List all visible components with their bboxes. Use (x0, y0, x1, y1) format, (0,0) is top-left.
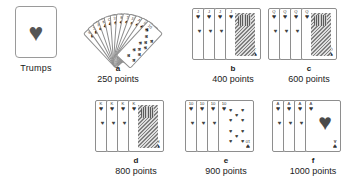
card-group-f: A♥♥A♥♥A♥♥A♥A♥♥ (272, 100, 342, 158)
group-letter-f: f (263, 156, 347, 166)
card-group-b: J♥♥J♥♥J♥♥J♥J♥ (192, 8, 262, 66)
trumps-label: Trumps (10, 63, 62, 73)
card-suit-icon: ♥ (198, 105, 206, 112)
caption-group-f: f 1000 points (263, 156, 347, 177)
card-suit-icon: ♥ (216, 13, 224, 20)
trumps-card: ♥ (15, 6, 57, 58)
card-suit-icon: ♥ (270, 13, 278, 20)
trumps-block: ♥ Trumps (10, 6, 62, 73)
pip: ♥ (235, 134, 238, 140)
group-card: A♥A♥♥ (305, 100, 341, 152)
group-letter-d: d (86, 156, 186, 166)
group-letter-c: c (259, 64, 347, 74)
pip: ♥ (235, 113, 238, 119)
group-points-a: 250 points (68, 74, 168, 85)
group-card: K♥K♥ (128, 100, 164, 152)
group-points-e: 900 points (176, 166, 276, 177)
court-figure-head (141, 107, 154, 118)
card-suit-icon: ♥ (97, 105, 105, 112)
card-suit-icon: ♥ (292, 13, 300, 20)
card-suit-icon: ♥ (108, 105, 116, 112)
pip: ♥ (241, 139, 244, 145)
card-suit-icon: ♥ (285, 105, 293, 112)
card-group-c: Q♥♥Q♥♥Q♥♥Q♥Q♥ (268, 8, 338, 66)
card-suit-icon: ♥ (130, 105, 138, 112)
pip: ♥ (241, 118, 244, 124)
pip: ♣ (130, 57, 136, 63)
group-card: Q♥Q♥ (301, 8, 337, 60)
card-suit-icon: ♥ (303, 13, 311, 20)
group-points-f: 1000 points (263, 166, 347, 177)
pip: ♣ (125, 53, 131, 59)
card-group-d: K♥♥K♥♥K♥♥K♥K♥ (95, 100, 165, 158)
card-pips: ♥♥♥♥♥♥♥♥♥♥ (227, 106, 251, 146)
pip: ♣ (148, 38, 154, 44)
group-points-d: 800 points (86, 166, 186, 177)
caption-group-c: c 600 points (259, 64, 347, 85)
card-suit-icon: ♥ (227, 13, 235, 20)
card-group-e: 10♥♥10♥♥10♥♥10♥10♥♥♥♥♥♥♥♥♥♥♥ (185, 100, 255, 158)
heart-icon: ♥ (29, 20, 44, 45)
card-suit-icon-corner: ♥ (331, 143, 339, 150)
card-suit-icon: ♥ (274, 105, 282, 112)
court-figure-head (314, 15, 327, 26)
card-suit-icon: ♥ (205, 13, 213, 20)
card-suit-icon: ♥ (209, 105, 217, 112)
card-suit-icon: ♥ (187, 105, 195, 112)
card-suit-icon: ♥ (281, 13, 289, 20)
card-suit-icon: ♥ (194, 13, 202, 20)
caption-group-a: a 250 points (68, 64, 168, 85)
pip: ♣ (142, 45, 148, 51)
pip: ♥ (241, 108, 244, 114)
group-card: 10♥10♥♥♥♥♥♥♥♥♥♥♥ (218, 100, 254, 152)
pip: ♥ (229, 108, 232, 114)
pip: ♥ (229, 129, 232, 135)
group-letter-e: e (176, 156, 276, 166)
card-suit-icon: ♥ (119, 105, 127, 112)
group-card: J♥J♥ (225, 8, 261, 60)
pip: ♥ (229, 118, 232, 124)
pip: ♣ (136, 52, 142, 58)
pip: ♥ (241, 129, 244, 135)
card-suit-icon: ♥ (296, 105, 304, 112)
card-scoring-figure: ♥ Trumps 9♣J♣A♠K♣Q♣10♠8♠7♠10♠A♠9♣10♣♣♣♣♣… (0, 0, 347, 187)
heart-icon: ♥ (312, 111, 338, 134)
court-figure-head (238, 15, 251, 26)
group-points-c: 600 points (259, 74, 347, 85)
pip: ♥ (229, 139, 232, 145)
caption-group-d: d 800 points (86, 156, 186, 177)
card-fan-group-a: 9♣J♣A♠K♣Q♣10♠8♠7♠10♠A♠9♣10♣♣♣♣♣♣♣♣♣♣♣ (63, 6, 181, 62)
caption-group-e: e 900 points (176, 156, 276, 177)
